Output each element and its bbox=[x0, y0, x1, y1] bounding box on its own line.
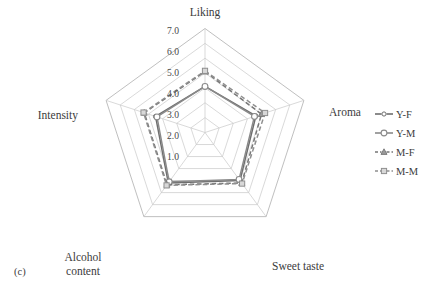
radar-spokes bbox=[106, 29, 304, 217]
data-point-m-m-liking bbox=[202, 68, 207, 73]
axis-label-alcohol-content-line2: content bbox=[66, 265, 101, 277]
data-point-y-m-liking bbox=[202, 84, 208, 90]
legend-label-m-f: M-F bbox=[396, 147, 415, 158]
panel-caption: (c) bbox=[14, 266, 26, 278]
axis-label-sweet-taste: Sweet taste bbox=[272, 260, 324, 272]
tick-label-7: 7.0 bbox=[167, 25, 179, 36]
data-point-m-m-aroma bbox=[262, 110, 267, 115]
tick-label-2: 2.0 bbox=[167, 130, 179, 141]
data-point-y-m-intensity bbox=[154, 114, 160, 120]
tick-label-5: 5.0 bbox=[167, 67, 179, 78]
data-point-m-m-intensity bbox=[141, 110, 146, 115]
spoke-sweet-taste bbox=[205, 133, 266, 217]
data-point-m-m-alcohol-content bbox=[164, 183, 169, 188]
legend-marker-y-m bbox=[381, 130, 387, 136]
tick-label-6: 6.0 bbox=[167, 46, 179, 57]
data-point-m-m-sweet-taste bbox=[240, 181, 245, 186]
spoke-alcohol-content bbox=[144, 133, 205, 217]
legend-marker-m-f bbox=[381, 149, 387, 155]
legend-marker-m-m bbox=[381, 168, 386, 173]
axis-label-liking: Liking bbox=[190, 6, 221, 19]
axis-label-aroma: Aroma bbox=[329, 106, 361, 118]
legend-item-y-f[interactable]: Y-F bbox=[375, 109, 412, 120]
axis-label-alcohol-content-line1: Alcohol bbox=[64, 251, 101, 263]
radial-tick-labels: 7.0 6.0 5.0 4.0 3.0 2.0 1.0 bbox=[167, 25, 179, 162]
tick-label-3: 3.0 bbox=[167, 109, 179, 120]
radar-series-layer bbox=[141, 68, 268, 188]
legend-label-m-m: M-M bbox=[396, 166, 419, 177]
radar-chart-svg: 7.0 6.0 5.0 4.0 3.0 2.0 1.0 Liking Aroma… bbox=[0, 0, 441, 298]
axis-label-intensity: Intensity bbox=[38, 109, 78, 122]
tick-label-1: 1.0 bbox=[167, 151, 179, 162]
chart-legend: Y-FY-MM-FM-M bbox=[375, 109, 419, 177]
category-axis-labels: Liking Aroma Sweet taste Alcohol content… bbox=[38, 6, 361, 277]
legend-item-m-f[interactable]: M-F bbox=[375, 147, 415, 158]
tick-label-4: 4.0 bbox=[167, 88, 179, 99]
data-point-y-m-aroma bbox=[252, 114, 258, 120]
radar-chart-figure: 7.0 6.0 5.0 4.0 3.0 2.0 1.0 Liking Aroma… bbox=[0, 0, 441, 298]
legend-label-y-m: Y-M bbox=[396, 128, 416, 139]
legend-item-m-m[interactable]: M-M bbox=[375, 166, 419, 177]
legend-marker-y-f bbox=[382, 112, 386, 116]
legend-label-y-f: Y-F bbox=[396, 109, 412, 120]
legend-item-y-m[interactable]: Y-M bbox=[375, 128, 416, 139]
